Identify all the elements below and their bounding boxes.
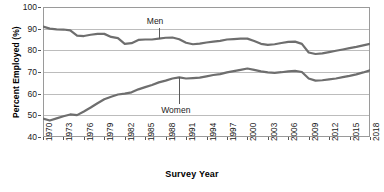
x-tick-mark-2009	[309, 137, 310, 140]
x-tick-label-2009: 2009	[312, 123, 320, 141]
x-tick-label-2000: 2000	[250, 123, 258, 141]
y-tick-mark-90	[38, 29, 41, 30]
x-tick-label-1973: 1973	[66, 123, 74, 141]
y-tick-label-60: 60	[28, 90, 37, 99]
y-tick-label-40: 40	[28, 133, 37, 142]
annotation-women-leader-line	[179, 77, 180, 104]
series-line-women	[43, 69, 370, 121]
y-tick-label-100: 100	[23, 3, 37, 12]
x-tick-mark-1994	[207, 137, 208, 140]
y-tick-label-70: 70	[28, 68, 37, 77]
x-tick-label-1982: 1982	[128, 123, 136, 141]
x-tick-label-1970: 1970	[46, 123, 54, 141]
series-line-men	[43, 27, 370, 55]
x-tick-mark-1997	[227, 137, 228, 140]
x-tick-label-1997: 1997	[230, 123, 238, 141]
y-tick-mark-60	[38, 94, 41, 95]
series-layer	[43, 7, 370, 137]
annotation-women: Women	[161, 106, 190, 115]
x-tick-label-2006: 2006	[291, 123, 299, 141]
x-tick-mark-1970	[43, 137, 44, 140]
y-axis: 405060708090100	[0, 0, 41, 145]
annotation-men: Men	[147, 17, 164, 26]
x-tick-mark-1991	[186, 137, 187, 140]
x-tick-mark-2015	[350, 137, 351, 140]
x-tick-label-1991: 1991	[189, 123, 197, 141]
x-tick-label-2003: 2003	[271, 123, 279, 141]
y-tick-label-80: 80	[28, 46, 37, 55]
x-tick-label-2015: 2015	[353, 123, 361, 141]
x-tick-mark-1988	[166, 137, 167, 140]
x-tick-label-2012: 2012	[332, 123, 340, 141]
x-tick-label-2018: 2018	[373, 123, 381, 141]
x-tick-label-1994: 1994	[210, 123, 218, 141]
x-tick-label-1976: 1976	[87, 123, 95, 141]
x-tick-label-1979: 1979	[107, 123, 115, 141]
x-tick-mark-1976	[84, 137, 85, 140]
y-tick-mark-40	[38, 137, 41, 138]
employment-rate-line-chart: Percent Employed (%) 405060708090100 Men…	[0, 0, 384, 192]
y-tick-mark-80	[38, 50, 41, 51]
y-tick-mark-50	[38, 115, 41, 116]
x-tick-mark-2012	[329, 137, 330, 140]
x-tick-mark-2018	[370, 137, 371, 140]
x-axis-title: Survey Year	[0, 169, 384, 179]
annotation-men-leader-line	[159, 28, 160, 39]
x-tick-mark-2003	[268, 137, 269, 140]
y-tick-label-50: 50	[28, 111, 37, 120]
y-tick-mark-70	[38, 72, 41, 73]
x-tick-label-1985: 1985	[148, 123, 156, 141]
x-tick-label-1988: 1988	[169, 123, 177, 141]
x-tick-mark-1982	[125, 137, 126, 140]
y-tick-mark-100	[38, 7, 41, 8]
y-tick-label-90: 90	[28, 25, 37, 34]
